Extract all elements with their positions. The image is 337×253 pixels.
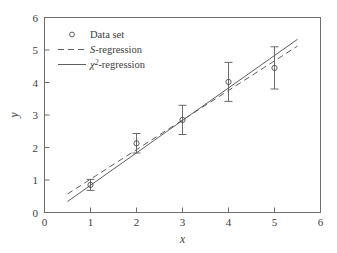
legend-entry-chi2-regression[interactable]: χ2-regression	[58, 58, 146, 71]
x-tick-label-4: 4	[226, 216, 232, 228]
data-point-4	[225, 62, 233, 101]
y-axis-title: y	[8, 112, 21, 119]
y-axis-ticks	[45, 18, 50, 213]
legend-label-data-set: Data set	[90, 29, 124, 40]
x-tick-label-5: 5	[272, 216, 278, 228]
y-tick-label-5: 5	[33, 44, 39, 56]
legend-label-s-regression: S-regression	[90, 44, 143, 55]
data-point-3	[179, 105, 187, 134]
data-point-2	[133, 134, 141, 154]
y-tick-labels: 0 1 2 3 4 5 6	[33, 12, 39, 219]
x-tick-labels: 0 1 2 3 4 5 6	[42, 216, 324, 228]
y-tick-label-2: 2	[33, 142, 39, 154]
x-tick-label-6: 6	[318, 216, 324, 228]
y-tick-label-0: 0	[33, 207, 39, 219]
chart-legend: Data set S-regression χ2-regression	[58, 29, 146, 70]
y-tick-label-6: 6	[33, 12, 39, 24]
x-tick-label-2: 2	[134, 216, 140, 228]
chart-figure: 0 1 2 3 4 5 6 0 1 2 3 4 5 6 x y	[0, 0, 337, 253]
y-tick-label-3: 3	[33, 109, 39, 121]
legend-label-s-suffix: -regression	[95, 44, 142, 55]
x-tick-label-0: 0	[42, 216, 48, 228]
legend-entry-s-regression[interactable]: S-regression	[58, 44, 143, 55]
open-circle-icon	[70, 32, 75, 37]
legend-label-chi2-regression: χ2-regression	[89, 58, 146, 71]
y-tick-label-1: 1	[33, 174, 39, 186]
x-axis-ticks	[45, 208, 321, 213]
legend-label-chi2-suffix: -regression	[98, 59, 145, 70]
x-tick-label-3: 3	[180, 216, 186, 228]
legend-entry-data-set[interactable]: Data set	[70, 29, 125, 40]
scatter-plot: 0 1 2 3 4 5 6 0 1 2 3 4 5 6 x y	[0, 0, 337, 253]
y-tick-label-4: 4	[33, 77, 39, 89]
x-axis-title: x	[179, 233, 186, 245]
x-tick-label-1: 1	[88, 216, 94, 228]
